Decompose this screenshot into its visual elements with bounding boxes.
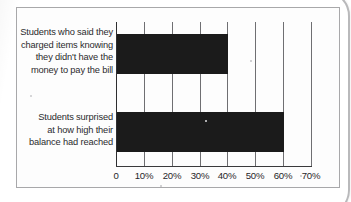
gridline-70 xyxy=(311,22,312,166)
category-label-0: Students who said they charged items kno… xyxy=(20,26,113,76)
scan-speckle xyxy=(250,60,252,62)
scan-speckle xyxy=(205,120,207,122)
x-tick-label-70: 70% xyxy=(291,170,331,182)
category-label-1: Students surprised at how high their bal… xyxy=(29,111,113,149)
x-axis-line xyxy=(116,166,312,167)
bar-students-surprised-balance xyxy=(117,112,284,152)
scan-speckle xyxy=(300,175,302,177)
bar-students-charged-knowing-no-money xyxy=(117,34,228,74)
bar-chart: Students who said they charged items kno… xyxy=(0,0,351,202)
scan-speckle xyxy=(30,95,32,97)
scan-speckle xyxy=(160,185,162,187)
